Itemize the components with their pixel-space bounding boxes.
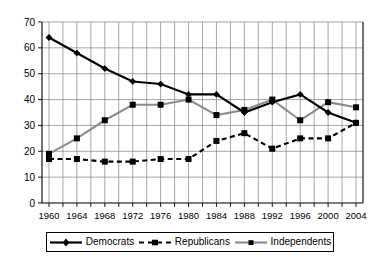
x-tick-label: 1984 xyxy=(206,210,227,221)
data-point-independents xyxy=(158,102,164,108)
data-point-independents xyxy=(325,99,331,105)
x-tick-label: 1996 xyxy=(290,210,311,221)
data-point-republicans xyxy=(297,135,303,141)
data-point-republicans xyxy=(130,159,136,165)
x-tick-label: 1980 xyxy=(178,210,199,221)
y-axis-tick-labels: 010203040506070 xyxy=(24,17,36,209)
chart-legend: Democrats Republicans Independents xyxy=(46,232,334,252)
x-tick-label: 1960 xyxy=(38,210,59,221)
data-point-republicans xyxy=(186,156,192,162)
legend-item-democrats: Democrats xyxy=(49,237,134,248)
legend-swatch-republicans-icon xyxy=(138,237,172,248)
party-identification-line-chart: 010203040506070 196019641968197219761980… xyxy=(0,0,379,261)
y-tick-label: 60 xyxy=(24,42,36,53)
legend-item-independents: Independents xyxy=(234,237,332,248)
x-tick-label: 2000 xyxy=(318,210,339,221)
data-point-republicans xyxy=(46,156,52,162)
legend-label-independents: Independents xyxy=(271,237,332,247)
data-point-independents xyxy=(213,112,219,118)
data-point-independents xyxy=(102,117,108,123)
data-point-independents xyxy=(353,104,359,110)
legend-swatch-independents-icon xyxy=(234,237,268,248)
x-tick-label: 1968 xyxy=(94,210,115,221)
data-point-republicans xyxy=(158,156,164,162)
y-tick-label: 20 xyxy=(24,146,36,157)
data-point-independents xyxy=(74,135,80,141)
legend-item-republicans: Republicans xyxy=(138,237,230,248)
x-axis-tick-labels: 1960196419681972197619801984198819921996… xyxy=(38,210,366,221)
chart-plot-area: 010203040506070 196019641968197219761980… xyxy=(0,0,379,225)
data-point-independents xyxy=(130,102,136,108)
y-tick-label: 0 xyxy=(29,198,35,209)
data-point-democrats xyxy=(129,78,136,85)
legend-label-democrats: Democrats xyxy=(86,237,134,247)
chart-svg: 010203040506070 196019641968197219761980… xyxy=(0,0,379,225)
y-tick-label: 10 xyxy=(24,172,36,183)
data-point-independents xyxy=(46,151,52,157)
y-tick-label: 30 xyxy=(24,120,36,131)
x-tick-label: 1988 xyxy=(234,210,255,221)
data-point-independents xyxy=(297,117,303,123)
gridlines-group xyxy=(42,22,363,203)
legend-label-republicans: Republicans xyxy=(175,237,230,247)
y-tick-label: 50 xyxy=(24,68,36,79)
x-tick-label: 1972 xyxy=(122,210,143,221)
data-point-republicans xyxy=(241,130,247,136)
x-tick-label: 1964 xyxy=(66,210,87,221)
y-tick-label: 70 xyxy=(24,17,36,28)
x-tickmarks-group xyxy=(49,203,356,207)
data-point-republicans xyxy=(74,156,80,162)
x-tick-label: 1992 xyxy=(262,210,283,221)
data-point-republicans xyxy=(269,146,275,152)
legend-swatch-democrats-icon xyxy=(49,237,83,248)
x-tick-label: 1976 xyxy=(150,210,171,221)
y-tick-label: 40 xyxy=(24,94,36,105)
data-point-republicans xyxy=(325,135,331,141)
data-point-republicans xyxy=(213,138,219,144)
data-point-democrats xyxy=(157,81,164,88)
data-point-republicans xyxy=(102,159,108,165)
x-tick-label: 2004 xyxy=(345,210,366,221)
